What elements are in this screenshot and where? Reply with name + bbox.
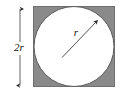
geometry-figure: r 2r [0, 0, 124, 96]
figure-canvas: r 2r [0, 0, 124, 96]
side-length-label: 2r [14, 41, 25, 53]
circle-shape [34, 7, 114, 87]
radius-label: r [74, 26, 79, 38]
